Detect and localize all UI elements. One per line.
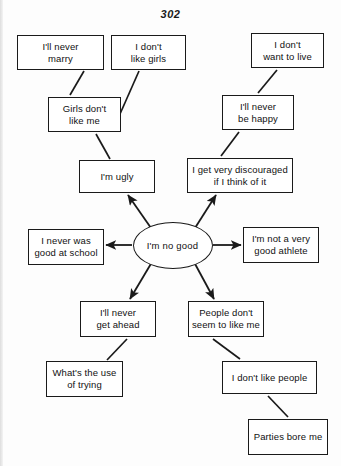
edge-ill-never-get-ahead-to-whats-the-use-of-trying: [107, 339, 127, 360]
edge-core-to-ill-never-get-ahead: [130, 262, 152, 299]
node-ill-never-marry: I'll nevermarry: [17, 35, 104, 70]
node-label: Girls don'tlike me: [63, 103, 107, 126]
node-label: I'm not a verygood athlete: [252, 233, 310, 256]
node-label-line: good at school: [34, 247, 97, 259]
edge-girls-dont-like-me-to-ill-never-marry: [70, 71, 84, 95]
node-label-line: be happy: [238, 113, 278, 125]
node-label-line: Parties bore me: [254, 431, 323, 443]
node-label-line: Girls don't: [63, 103, 107, 115]
edge-i-get-very-discouraged-to-ill-never-be-happy: [221, 132, 239, 156]
edge-core-to-people-dont-seem-to-like-me: [194, 262, 214, 299]
node-label: I'll neverbe happy: [238, 101, 278, 124]
node-label-line: I'll never: [42, 41, 78, 53]
edge-core-to-im-ugly: [128, 195, 151, 228]
node-label: I'll neverget ahead: [96, 307, 139, 330]
edge-im-ugly-to-girls-dont-like-me: [96, 134, 110, 159]
scan-edge: [0, 0, 3, 466]
node-label: I don't like people: [232, 372, 308, 384]
node-label-line: good athlete: [252, 245, 310, 257]
node-label-line: I'm not a very: [252, 233, 310, 245]
node-girls-dont-like-me: Girls don'tlike me: [48, 97, 121, 132]
node-label: I don'tlike girls: [131, 41, 166, 64]
node-ill-never-be-happy: I'll neverbe happy: [222, 95, 294, 130]
node-label-line: I don't: [263, 39, 312, 51]
node-parties-bore-me: Parties bore me: [248, 419, 328, 455]
node-label-line: of trying: [53, 379, 117, 391]
node-label: Parties bore me: [254, 431, 323, 443]
edge-core-to-i-get-very-discouraged: [195, 195, 216, 228]
node-label: I get very discouragedif I think of it: [192, 164, 288, 187]
node-label: I never wasgood at school: [34, 235, 97, 258]
node-label-line: I'll never: [96, 307, 139, 319]
node-i-dont-want-to-live: I don'twant to live: [251, 33, 324, 68]
core-node-label: I'm no good: [147, 240, 199, 251]
node-label-line: I'll never: [238, 101, 278, 113]
node-label-line: I never was: [34, 235, 97, 247]
diagram-page: 302 I'll nevermarryI don'tlike girlsI do…: [0, 0, 341, 466]
node-i-dont-like-people: I don't like people: [222, 361, 317, 394]
node-im-ugly: I'm ugly: [79, 160, 155, 193]
node-label: I'll nevermarry: [42, 41, 78, 64]
node-label-line: seem to like me: [192, 319, 260, 331]
node-im-not-a-very-good-athlete: I'm not a verygood athlete: [243, 227, 319, 263]
edge-people-dont-seem-to-like-me-to-i-dont-like-people: [213, 339, 240, 359]
node-label-line: get ahead: [96, 319, 139, 331]
node-label: I'm ugly: [100, 171, 133, 183]
edge-i-dont-like-people-to-parties-bore-me: [268, 396, 288, 417]
node-ill-never-get-ahead: I'll neverget ahead: [80, 301, 156, 337]
node-label-line: I'm ugly: [100, 171, 133, 183]
page-number: 302: [0, 8, 341, 20]
node-i-never-was-good-at-school: I never wasgood at school: [28, 229, 104, 265]
node-label-line: like girls: [131, 53, 166, 65]
node-label-line: marry: [42, 53, 78, 65]
core-node: I'm no good: [133, 222, 213, 269]
node-i-dont-like-girls: I don'tlike girls: [111, 35, 186, 70]
node-label-line: if I think of it: [192, 176, 288, 188]
node-people-dont-seem-to-like-me: People don'tseem to like me: [188, 301, 264, 337]
node-label-line: want to live: [263, 51, 312, 63]
node-label-line: I get very discouraged: [192, 164, 288, 176]
node-i-get-very-discouraged: I get very discouragedif I think of it: [187, 158, 293, 193]
node-label-line: I don't: [131, 41, 166, 53]
node-label: People don'tseem to like me: [192, 307, 260, 330]
edge-ill-never-be-happy-to-i-dont-want-to-live: [258, 70, 277, 93]
node-whats-the-use-of-trying: What's the useof trying: [46, 361, 123, 397]
node-label-line: I don't like people: [232, 372, 308, 384]
node-label: What's the useof trying: [53, 367, 117, 390]
node-label: I don'twant to live: [263, 39, 312, 62]
node-label-line: People don't: [192, 307, 260, 319]
node-label-line: What's the use: [53, 367, 117, 379]
edge-girls-dont-like-me-to-i-dont-like-girls: [120, 71, 139, 114]
node-label-line: like me: [63, 115, 107, 127]
